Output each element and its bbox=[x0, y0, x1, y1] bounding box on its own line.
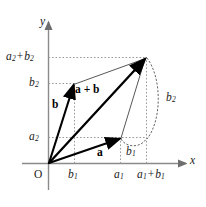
brace-b2-arc bbox=[147, 58, 158, 139]
x-tick-a1b1-sub2: 1 bbox=[161, 172, 165, 181]
origin-label: O bbox=[34, 169, 42, 181]
x-tick-label-b1: b1 bbox=[68, 169, 78, 181]
y-tick-label-a2: a2 bbox=[29, 131, 39, 143]
brace-label-b1: b1 bbox=[126, 146, 136, 158]
measure-braces bbox=[121, 58, 158, 146]
y-tick-b2-base: b bbox=[29, 76, 35, 88]
x-tick-a1b1-plus: + bbox=[147, 168, 156, 180]
y-tick-a2b2-base: a bbox=[6, 50, 12, 62]
vector-sum-label: a + b bbox=[75, 84, 99, 96]
x-tick-label-a1b1: a1+b1 bbox=[137, 169, 165, 181]
brace-b1-arc bbox=[121, 139, 146, 146]
y-tick-b2-sub: 2 bbox=[35, 80, 39, 89]
vector-a-label: a bbox=[97, 147, 103, 159]
vector-addition-diagram: a2+b2 b2 a2 b1 a1 a1+b1 x y O a b a + b … bbox=[0, 0, 206, 207]
y-axis-label: y bbox=[40, 16, 45, 28]
x-tick-a1-base: a bbox=[114, 168, 120, 180]
y-tick-a2-base: a bbox=[29, 130, 35, 142]
x-tick-a1-sub: 1 bbox=[120, 172, 124, 181]
x-tick-b1-sub: 1 bbox=[74, 172, 78, 181]
y-tick-label-a2b2: a2+b2 bbox=[6, 51, 34, 63]
brace-label-b2: b2 bbox=[166, 92, 176, 104]
vector-b-label: b bbox=[52, 99, 58, 111]
x-tick-label-a1: a1 bbox=[114, 169, 124, 181]
x-axis-label: x bbox=[190, 155, 195, 167]
brace-b2-sub: 2 bbox=[172, 95, 176, 104]
y-tick-a2-sub: 2 bbox=[35, 134, 39, 143]
y-tick-a2b2-sub2: 2 bbox=[30, 54, 34, 63]
brace-b1-base: b bbox=[126, 145, 132, 157]
x-tick-a1b1-base: a bbox=[137, 168, 143, 180]
axes-group bbox=[22, 22, 186, 190]
y-tick-a2b2-plus: + bbox=[16, 50, 25, 62]
brace-b1-sub: 1 bbox=[132, 149, 136, 158]
x-tick-b1-base: b bbox=[68, 168, 74, 180]
y-tick-label-b2: b2 bbox=[29, 77, 39, 89]
brace-b2-base: b bbox=[166, 91, 172, 103]
